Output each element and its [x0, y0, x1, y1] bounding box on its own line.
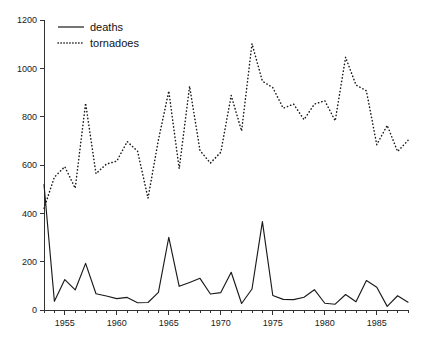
- legend-label-tornadoes: tornadoes: [90, 37, 139, 49]
- y-tick-label: 400: [22, 209, 37, 219]
- x-tick-label: 1975: [263, 318, 283, 328]
- series-line-deaths: [44, 185, 408, 307]
- y-axis-ticks: 020040060080010001200: [17, 15, 44, 315]
- y-tick-label: 600: [22, 160, 37, 170]
- y-tick-label: 200: [22, 257, 37, 267]
- x-tick-label: 1980: [315, 318, 335, 328]
- x-axis-ticks: 1955196019651970197519801985: [44, 310, 408, 328]
- x-tick-label: 1970: [211, 318, 231, 328]
- chart-legend: deathstornadoes: [58, 21, 139, 49]
- tornado-deaths-line-chart: 020040060080010001200 195519601965197019…: [0, 0, 444, 344]
- y-tick-label: 800: [22, 112, 37, 122]
- x-tick-label: 1965: [159, 318, 179, 328]
- x-tick-label: 1955: [55, 318, 75, 328]
- chart-container: 020040060080010001200 195519601965197019…: [0, 0, 444, 344]
- legend-label-deaths: deaths: [90, 21, 124, 33]
- series-line-tornadoes: [44, 44, 408, 209]
- axis-spines: [44, 20, 408, 310]
- y-tick-label: 0: [32, 305, 37, 315]
- chart-axes: [44, 20, 408, 310]
- chart-series: [44, 44, 408, 307]
- x-tick-label: 1985: [367, 318, 387, 328]
- y-tick-label: 1200: [17, 15, 37, 25]
- y-tick-label: 1000: [17, 64, 37, 74]
- x-tick-label: 1960: [107, 318, 127, 328]
